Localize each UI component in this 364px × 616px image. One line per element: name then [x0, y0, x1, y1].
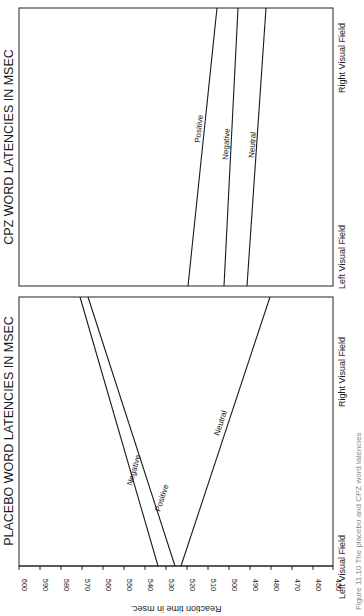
- placebo-left-vf-label: Left Visual Field: [337, 535, 347, 599]
- svg-text:530: 530: [167, 579, 176, 592]
- y-axis-ticks: [19, 566, 333, 570]
- svg-text:460: 460: [314, 579, 323, 592]
- placebo-title: PLACEBO WORD LATENCIES IN MSEC: [2, 316, 16, 546]
- svg-text:570: 570: [83, 579, 92, 592]
- placebo-label-neutral: Neutral: [212, 409, 229, 437]
- svg-text:500: 500: [230, 579, 239, 592]
- placebo-label-positive: Positive: [153, 483, 170, 513]
- svg-text:510: 510: [209, 579, 218, 592]
- cpz-label-negative: Negative: [221, 128, 232, 161]
- placebo-right-vf-label: Right Visual Field: [337, 337, 347, 407]
- cpz-label-neutral: Neutral: [247, 132, 258, 159]
- svg-text:540: 540: [146, 579, 155, 592]
- svg-text:600: 600: [20, 579, 29, 592]
- svg-text:560: 560: [104, 579, 113, 592]
- svg-text:580: 580: [62, 579, 71, 592]
- svg-text:490: 490: [251, 579, 260, 592]
- placebo-line-negative: [80, 297, 158, 566]
- y-axis: 600 590 580 570 560 550 540 530 520 510 …: [19, 566, 343, 614]
- placebo-line-neutral: [181, 297, 270, 566]
- svg-text:520: 520: [188, 579, 197, 592]
- cpz-plot-frame: [19, 8, 333, 286]
- svg-text:480: 480: [272, 579, 281, 592]
- svg-text:550: 550: [125, 579, 134, 592]
- cpz-right-vf-label: Right Visual Field: [337, 23, 347, 93]
- y-axis-tick-labels: 600 590 580 570 560 550 540 530 520 510 …: [20, 579, 343, 592]
- y-axis-title: Reaction time in msec.: [130, 604, 221, 614]
- placebo-plot-frame: [19, 297, 333, 566]
- placebo-series: [80, 297, 270, 566]
- cpz-title: CPZ WORD LATENCIES IN MSEC: [2, 49, 16, 245]
- svg-text:590: 590: [41, 579, 50, 592]
- cpz-left-vf-label: Left Visual Field: [337, 225, 347, 289]
- figure-caption: Figure 11.10 The placebo and CPZ word la…: [354, 432, 363, 610]
- figure: CPZ WORD LATENCIES IN MSEC PLACEBO WORD …: [0, 0, 364, 616]
- placebo-label-negative: Negative: [125, 453, 143, 486]
- svg-text:470: 470: [293, 579, 302, 592]
- cpz-line-positive: [188, 8, 217, 286]
- placebo-line-positive: [88, 297, 175, 566]
